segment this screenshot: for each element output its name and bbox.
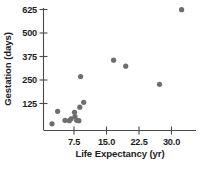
y-axis-title: Gestation (days): [2, 32, 13, 106]
y-tick-label-125: 125: [22, 99, 37, 109]
y-tick-label-250: 250: [22, 75, 37, 85]
data-points-group: [49, 7, 184, 126]
scatterplot-figure: 625 500 375 250 125 7.5 15.0 22.5 30.0 L…: [0, 0, 200, 183]
data-point: [111, 58, 116, 63]
data-point: [49, 121, 54, 126]
data-point: [157, 82, 162, 87]
x-tick-label-22-5: 22.5: [130, 137, 147, 147]
y-tick-label-625: 625: [22, 5, 37, 15]
data-point: [78, 74, 83, 79]
x-tick-label-7-5: 7.5: [68, 137, 80, 147]
scatterplot-svg: 625 500 375 250 125 7.5 15.0 22.5 30.0 L…: [0, 0, 200, 183]
data-point: [76, 118, 81, 123]
data-point: [81, 100, 86, 105]
x-tick-label-30-0: 30.0: [163, 137, 180, 147]
data-point: [123, 64, 128, 69]
x-axis-title: Life Expectancy (yr): [75, 148, 164, 159]
data-point: [77, 105, 82, 110]
data-point: [179, 7, 184, 12]
y-tick-label-500: 500: [22, 28, 37, 38]
data-point: [55, 109, 60, 114]
y-tick-label-375: 375: [22, 52, 37, 62]
x-tick-label-15-0: 15.0: [98, 137, 115, 147]
